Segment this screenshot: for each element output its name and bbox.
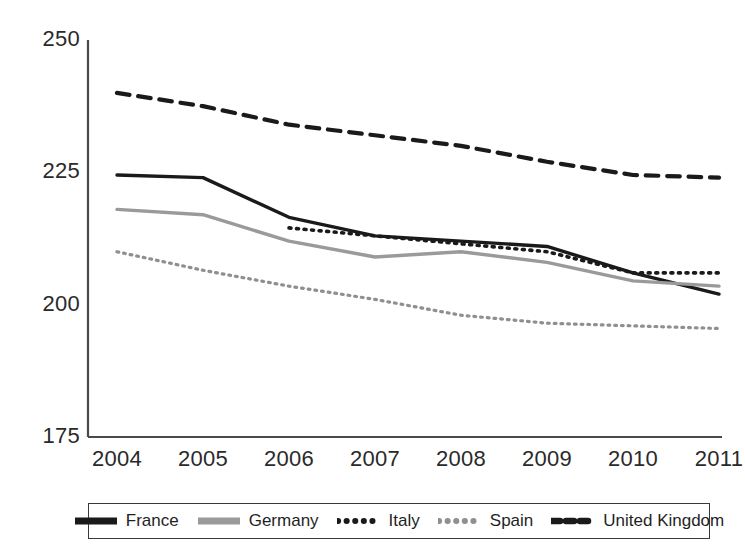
x-tick-label: 2007: [332, 446, 418, 472]
y-tick-label: 250: [18, 26, 80, 52]
x-tick-label: 2006: [246, 446, 332, 472]
series-line-france: [117, 175, 719, 294]
y-tick-label: 225: [18, 158, 80, 184]
legend-item[interactable]: Italy: [337, 511, 420, 531]
line-chart: 250225200175 200420052006200720082009201…: [0, 0, 745, 556]
legend-item[interactable]: Spain: [438, 511, 533, 531]
series-group: [117, 93, 719, 329]
legend-swatch-icon: [74, 514, 118, 528]
chart-legend: FranceGermanyItalySpainUnited Kingdom: [88, 503, 710, 539]
legend-item[interactable]: Germany: [197, 511, 319, 531]
legend-label: United Kingdom: [603, 511, 724, 531]
series-line-germany: [117, 209, 719, 286]
series-line-italy: [289, 228, 719, 273]
y-tick-label: 175: [18, 423, 80, 449]
legend-label: Germany: [249, 511, 319, 531]
x-tick-label: 2011: [676, 446, 745, 472]
series-line-spain: [117, 252, 719, 329]
x-tick-label: 2008: [418, 446, 504, 472]
legend-item[interactable]: France: [74, 511, 179, 531]
x-tick-label: 2010: [590, 446, 676, 472]
legend-swatch-icon: [551, 514, 595, 528]
series-line-united-kingdom: [117, 93, 719, 178]
plot-area: [0, 0, 745, 556]
legend-label: France: [126, 511, 179, 531]
y-tick-label: 200: [18, 291, 80, 317]
legend-swatch-icon: [438, 514, 482, 528]
x-tick-label: 2009: [504, 446, 590, 472]
legend-swatch-icon: [197, 514, 241, 528]
legend-swatch-icon: [337, 514, 381, 528]
x-tick-label: 2004: [74, 446, 160, 472]
legend-item[interactable]: United Kingdom: [551, 511, 724, 531]
legend-label: Spain: [490, 511, 533, 531]
legend-label: Italy: [389, 511, 420, 531]
x-tick-label: 2005: [160, 446, 246, 472]
